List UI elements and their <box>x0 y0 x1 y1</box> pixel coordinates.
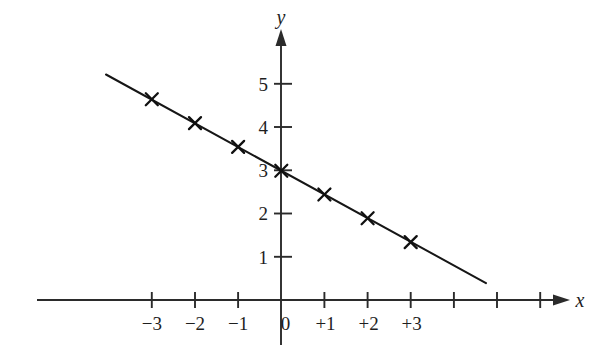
y-tick-label-1: 1 <box>259 247 269 268</box>
axis-names: x y <box>275 6 585 311</box>
x-axis-label: x <box>575 289 585 311</box>
x-tick-label-+1: +1 <box>315 313 335 334</box>
data-point-marker <box>362 212 374 224</box>
y-tick-label-4: 4 <box>259 117 269 138</box>
x-tick-label--2: −2 <box>185 313 205 334</box>
x-tick-label-+3: +3 <box>402 313 422 334</box>
x-tick-label--3: −3 <box>142 313 162 334</box>
y-tick-labels: 1 2 3 4 5 <box>259 74 269 268</box>
axes-group <box>37 29 570 345</box>
data-point-marker <box>405 236 417 248</box>
y-tick-label-5: 5 <box>259 74 269 95</box>
x-tick-labels: −3 −2 −1 0 +1 +2 +3 <box>142 313 422 334</box>
y-tick-label-3: 3 <box>259 160 269 181</box>
x-axis-arrow-icon <box>553 295 570 306</box>
data-point-marker <box>232 141 244 153</box>
x-tick-label-+2: +2 <box>358 313 378 334</box>
plotted-line-group <box>106 75 486 284</box>
graph-figure: −3 −2 −1 0 +1 +2 +3 1 2 3 4 5 x y <box>0 0 597 364</box>
x-tick-label--1: −1 <box>228 313 248 334</box>
data-point-marker <box>146 93 158 105</box>
y-tick-label-2: 2 <box>259 203 269 224</box>
y-axis-label: y <box>275 6 286 29</box>
coordinate-plane: −3 −2 −1 0 +1 +2 +3 1 2 3 4 5 x y <box>0 0 597 364</box>
data-line-segment <box>106 75 486 284</box>
y-axis-arrow-icon <box>276 29 287 46</box>
data-point-marker <box>189 117 201 129</box>
x-tick-label-0: 0 <box>281 313 291 334</box>
data-point-marker <box>318 189 330 201</box>
